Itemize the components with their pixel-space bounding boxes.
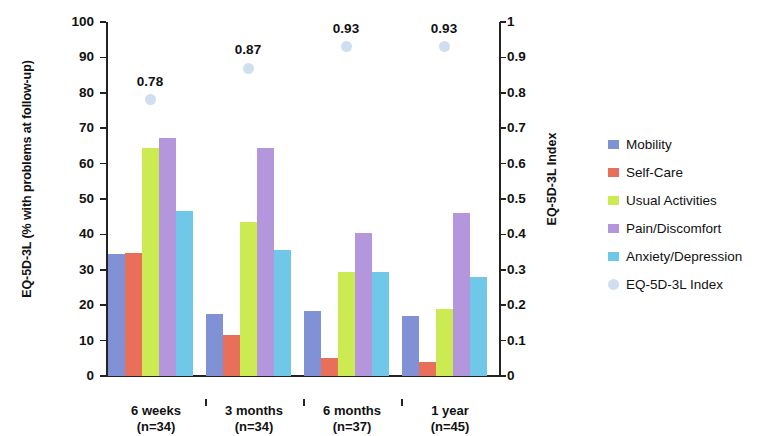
legend-swatch-icon [608, 196, 619, 205]
y-axis-left-tick [100, 198, 106, 200]
y-axis-right-tick [500, 21, 506, 23]
y-axis-left-tick [100, 375, 106, 377]
bar [338, 272, 355, 376]
y-axis-right-tick [500, 57, 506, 59]
y-axis-left-tick-label: 100 [34, 15, 94, 29]
y-axis-left-tick-label: 60 [34, 157, 94, 171]
bar-group [303, 22, 401, 376]
chart-legend: MobilitySelf-CareUsual ActivitiesPain/Di… [608, 130, 742, 298]
bar [274, 250, 291, 376]
index-data-label: 0.78 [120, 74, 180, 89]
y-axis-left-tick [100, 57, 106, 59]
y-axis-right-tick-label: 0 [507, 369, 547, 383]
legend-item-label: Self-Care [626, 165, 683, 180]
y-axis-right-tick [500, 375, 506, 377]
x-axis-label-name: 1 year [390, 403, 510, 419]
y-axis-left-tick-label: 50 [34, 192, 94, 206]
legend-swatch-icon [608, 140, 619, 149]
y-axis-right-tick-label: 0.9 [507, 50, 547, 64]
x-axis-label-count: (n=45) [390, 419, 510, 435]
y-axis-left-tick-label: 10 [34, 334, 94, 348]
plot-area: 0102030405060708090100 00.10.20.30.40.50… [107, 22, 499, 376]
y-axis-left-tick [100, 304, 106, 306]
y-axis-right-tick-label: 0.1 [507, 334, 547, 348]
legend-swatch-icon [608, 224, 619, 233]
bar [372, 272, 389, 376]
y-axis-left-title: EQ-5D-3L (% with problems at follow-up) [20, 34, 34, 324]
bar [223, 335, 240, 376]
index-marker [341, 41, 352, 52]
y-axis-left-tick-label: 70 [34, 121, 94, 135]
y-axis-right-tick-label: 0.3 [507, 263, 547, 277]
legend-item-label: EQ-5D-3L Index [626, 277, 723, 292]
bar [321, 358, 338, 376]
bar [470, 277, 487, 376]
y-axis-right-tick-label: 0.7 [507, 121, 547, 135]
y-axis-left-tick-label: 30 [34, 263, 94, 277]
y-axis-right-tick-label: 0.5 [507, 192, 547, 206]
y-axis-left-tick-label: 80 [34, 86, 94, 100]
y-axis-left-tick-label: 40 [34, 227, 94, 241]
legend-item[interactable]: Anxiety/Depression [608, 242, 742, 270]
y-axis-left-tick [100, 21, 106, 23]
bar [402, 316, 419, 376]
index-data-label: 0.93 [414, 21, 474, 36]
y-axis-left-tick [100, 92, 106, 94]
bar [436, 309, 453, 376]
bar [257, 148, 274, 376]
bar [419, 362, 436, 376]
legend-item-label: Anxiety/Depression [626, 249, 742, 264]
y-axis-left-tick [100, 340, 106, 342]
y-axis-left-tick-label: 0 [34, 369, 94, 383]
y-axis-right-tick [500, 92, 506, 94]
y-axis-right-tick-label: 0.6 [507, 157, 547, 171]
legend-item-label: Pain/Discomfort [626, 221, 721, 236]
y-axis-right-tick-label: 0.4 [507, 227, 547, 241]
y-axis-right-tick-label: 0.2 [507, 298, 547, 312]
legend-swatch-icon [608, 252, 619, 261]
y-axis-right-tick-label: 0.8 [507, 86, 547, 100]
y-axis-right-tick [500, 234, 506, 236]
bar-group [205, 22, 303, 376]
index-marker [145, 94, 156, 105]
legend-item-label: Usual Activities [626, 193, 717, 208]
bar [159, 138, 176, 376]
legend-item[interactable]: Pain/Discomfort [608, 214, 742, 242]
bar [206, 314, 223, 376]
legend-item[interactable]: Mobility [608, 130, 742, 158]
x-axis-label: 1 year(n=45) [390, 403, 510, 436]
x-axis-tick [401, 399, 403, 406]
y-axis-left-tick [100, 127, 106, 129]
y-axis-right-tick-label: 1 [507, 15, 547, 29]
bar-group [401, 22, 499, 376]
bar [142, 148, 159, 376]
y-axis-right-title: EQ-5D-3L Index [545, 79, 559, 279]
legend-item-label: Mobility [626, 137, 672, 152]
y-axis-right-tick [500, 340, 506, 342]
bar [125, 253, 142, 376]
y-axis-left-tick [100, 234, 106, 236]
y-axis-right-tick [500, 304, 506, 306]
bar [176, 211, 193, 376]
bar [355, 233, 372, 376]
bar [304, 311, 321, 376]
x-axis-tick [303, 399, 305, 406]
y-axis-right-tick [500, 127, 506, 129]
y-axis-right-tick [500, 163, 506, 165]
index-data-label: 0.93 [316, 21, 376, 36]
x-axis-tick [205, 399, 207, 406]
legend-item[interactable]: EQ-5D-3L Index [608, 270, 742, 298]
legend-item[interactable]: Self-Care [608, 158, 742, 186]
legend-item[interactable]: Usual Activities [608, 186, 742, 214]
y-axis-left-tick [100, 163, 106, 165]
y-axis-left-tick-label: 90 [34, 50, 94, 64]
index-marker [243, 63, 254, 74]
bar [453, 213, 470, 376]
legend-swatch-icon [608, 279, 619, 290]
y-axis-left-tick-label: 20 [34, 298, 94, 312]
index-marker [439, 41, 450, 52]
y-axis-right-tick [500, 269, 506, 271]
index-data-label: 0.87 [218, 42, 278, 57]
bar [240, 222, 257, 376]
y-axis-left-tick [100, 269, 106, 271]
